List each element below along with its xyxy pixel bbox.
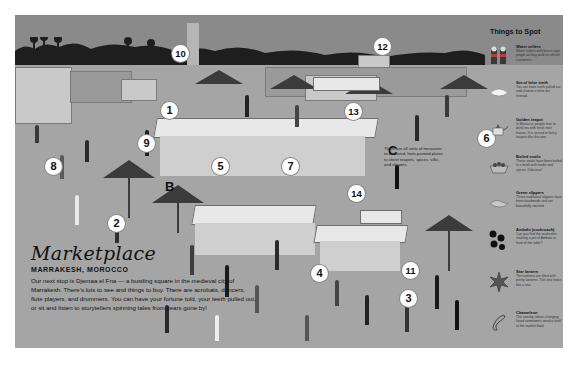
number-marker-3: 3 [400,290,417,307]
spot-item-boiled-snails: Boiled snails These snails have been boi… [488,154,563,182]
number-marker-9: 9 [138,135,155,152]
number-marker-13: 13 [345,103,362,120]
location-subtitle: MARRAKESH, MOROCCO [31,266,256,273]
false-teeth-icon [488,82,510,104]
spot-item-chameleon: Chameleon The sneaky colour-changing liz… [488,310,563,338]
illustration-spread: 1234567891011121314BC Marketplace MARRAK… [15,15,563,348]
spot-item-green-slippers: Green slippers These traditional slipper… [488,190,563,218]
number-marker-2: 2 [108,215,125,232]
letter-marker-B: B [165,179,174,194]
number-marker-14: 14 [348,185,365,202]
spot-item-desc: Can you find the snakeskin shaking a pot… [516,232,562,245]
spot-item-golden-teapot: Golden teapot In Morocco, people love to… [488,117,563,145]
chameleon-icon [488,312,510,334]
number-marker-7: 7 [282,158,299,175]
number-marker-4: 4 [311,265,328,282]
boiled-snails-icon [488,156,510,178]
ambalo-icon [488,229,510,251]
things-to-spot-title: Things to Spot [490,27,563,36]
number-marker-1: 1 [161,102,178,119]
spot-item-ambalo: Ambalo (cockroach) Can you find the snak… [488,227,563,255]
number-marker-5: 5 [212,158,229,175]
spot-item-desc: You can have teeth pulled out and choose… [516,85,562,98]
spot-item-water-sellers: Water sellers Water sellers with brass c… [488,44,563,72]
intro-block: Marketplace MARRAKESH, MOROCCO Our next … [31,242,256,312]
spot-item-star-lantern: Star lantern The lanterns are lifted wit… [488,269,563,297]
spot-item-desc: The lanterns are lifted with pretty lant… [516,274,562,287]
intro-paragraph: Our next stop is Djemaa el Fna — a bustl… [31,276,256,312]
number-marker-12: 12 [374,38,391,55]
green-slippers-icon [488,192,510,214]
page-title: Marketplace [31,242,256,264]
star-lantern-icon [488,271,510,293]
spot-item-desc: These snails have been boiled in a broth… [516,159,562,172]
spot-item-desc: These traditional slippers have been han… [516,195,562,208]
spot-item-desc: The sneaky colour-changing lizard someti… [516,315,562,328]
spot-item-desc: In Morocco, people love to drink tea wit… [516,122,562,140]
things-to-spot-panel: Things to Spot Water sellers Water selle… [482,27,563,348]
measures-caption: There are all sorts of measures to be fo… [384,146,444,168]
spot-item-desc: Water sellers with brass cups jangle as … [516,49,562,62]
spot-item-false-teeth: Set of false teeth You can have teeth pu… [488,80,563,108]
number-marker-10: 10 [172,45,189,62]
golden-teapot-icon [488,119,510,141]
number-marker-11: 11 [402,262,419,279]
number-marker-8: 8 [45,158,62,175]
water-sellers-icon [488,46,510,68]
